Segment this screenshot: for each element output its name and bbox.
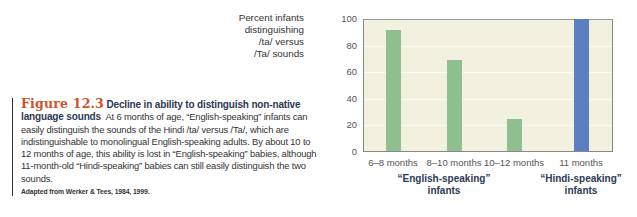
y-tick-label: 60	[327, 66, 357, 77]
group-label-line: infants	[384, 185, 504, 197]
figure-caption: Figure 12.3 Decline in ability to distin…	[12, 98, 321, 196]
y-axis-label-line: Percent infants	[239, 12, 304, 24]
bar	[574, 19, 589, 151]
group-label-line: “Hindi-speaking”	[521, 173, 637, 185]
y-axis-label-line: distinguishing	[239, 24, 304, 36]
group-label-hindi: “Hindi-speaking” infants	[521, 173, 637, 197]
y-tick-label: 40	[327, 93, 357, 104]
y-axis-label-line: /Ta/ sounds	[239, 48, 304, 60]
x-tick-label: 11 months	[546, 157, 616, 168]
bar	[507, 119, 522, 151]
y-axis-label-line: /ta/ versus	[239, 36, 304, 48]
y-tick-label: 80	[327, 40, 357, 51]
caption-source: Adapted from Werker & Tees, 1984, 1999.	[21, 187, 321, 196]
figure-number: Figure 12.3	[21, 96, 104, 111]
x-tick-label: 6–8 months	[358, 157, 428, 168]
x-tick-label: 10–12 months	[479, 157, 549, 168]
plot-area	[363, 19, 613, 152]
bar	[386, 30, 401, 151]
group-label-english: “English-speaking” infants	[384, 173, 504, 197]
y-tick-label: 0	[327, 146, 357, 157]
y-axis-label: Percent infants distinguishing /ta/ vers…	[239, 12, 304, 60]
y-tick-label: 100	[327, 13, 357, 24]
y-tick-label: 20	[327, 119, 357, 130]
group-label-line: “English-speaking”	[384, 173, 504, 185]
bar	[447, 60, 462, 151]
group-label-line: infants	[521, 185, 637, 197]
caption-text: Figure 12.3 Decline in ability to distin…	[21, 98, 321, 185]
